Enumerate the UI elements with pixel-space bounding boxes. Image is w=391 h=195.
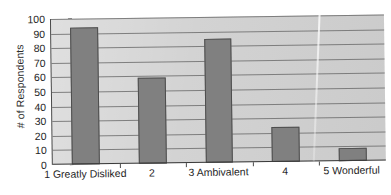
y-axis-tick-label: 10 [23, 144, 47, 156]
y-axis-tick-label: 30 [22, 115, 46, 127]
y-axis-tick-label: 100 [21, 13, 45, 25]
y-axis-tick-label: 40 [22, 101, 46, 113]
x-axis-tick-label: 3 Ambivalent [188, 165, 248, 178]
y-axis-tick-label: 70 [21, 57, 45, 69]
y-axis-tick-label: 50 [22, 86, 46, 98]
bar [138, 77, 167, 163]
gridline [51, 15, 384, 20]
x-axis-tick-label: 4 [282, 165, 288, 177]
gridline [51, 29, 384, 34]
plot-area [50, 15, 386, 165]
bar-chart-figure: # of Respondents 1009080706050403020100 … [0, 0, 391, 195]
y-axis-tick-label: 80 [21, 42, 45, 54]
x-axis-tick-label: 2 [149, 167, 155, 179]
y-axis-tick-labels: 1009080706050403020100 [21, 13, 47, 171]
y-axis-tick-label: 60 [22, 71, 46, 83]
x-axis-tick-label: 5 Wonderful [323, 164, 380, 177]
gridlines [51, 15, 384, 19]
bar [204, 38, 234, 162]
y-axis-tick-label: 90 [21, 28, 45, 40]
y-axis-tick-label: 20 [22, 130, 46, 142]
bar [272, 127, 300, 162]
page-edge [0, 189, 391, 195]
x-axis-tick-labels: 1 Greatly Disliked23 Ambivalent45 Wonder… [52, 164, 385, 188]
x-axis-tick-label: 1 Greatly Disliked [44, 167, 126, 180]
chart-canvas: # of Respondents 1009080706050403020100 … [0, 0, 391, 195]
bar [70, 27, 100, 165]
